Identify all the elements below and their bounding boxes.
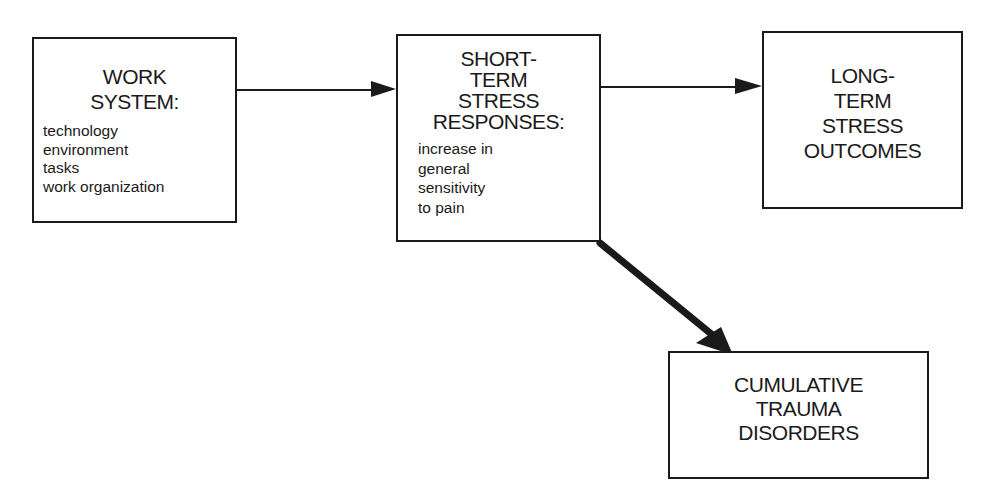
- title-line: STRESS: [398, 90, 599, 111]
- arrow-short-to-cumulative: [600, 243, 733, 355]
- node-long-term-stress-outcomes: LONG- TERM STRESS OUTCOMES: [762, 31, 963, 209]
- node-items: increase in general sensitivity to pain: [418, 139, 599, 217]
- title-line: TERM: [764, 88, 961, 113]
- title-line: CUMULATIVE: [670, 373, 927, 397]
- node-title: CUMULATIVE TRAUMA DISORDERS: [670, 373, 927, 445]
- title-line: WORK: [34, 64, 235, 89]
- arrow-short-to-long: [601, 78, 762, 94]
- title-line: SHORT-: [398, 48, 599, 69]
- title-line: DISORDERS: [670, 421, 927, 445]
- node-item: technology: [43, 122, 235, 141]
- title-line: SYSTEM:: [34, 89, 235, 114]
- node-title: LONG- TERM STRESS OUTCOMES: [764, 63, 961, 163]
- title-line: TERM: [398, 69, 599, 90]
- node-item: work organization: [43, 178, 235, 197]
- title-line: STRESS: [764, 113, 961, 138]
- node-title: SHORT- TERM STRESS RESPONSES:: [398, 48, 599, 132]
- node-work-system: WORK SYSTEM: technology environment task…: [32, 37, 237, 223]
- node-item: tasks: [43, 159, 235, 178]
- node-item: sensitivity: [418, 178, 599, 198]
- node-item: environment: [43, 141, 235, 160]
- title-line: TRAUMA: [670, 397, 927, 421]
- node-item: to pain: [418, 198, 599, 218]
- node-item: general: [418, 159, 599, 179]
- node-item: increase in: [418, 139, 599, 159]
- arrow-work-to-short: [237, 81, 396, 97]
- node-items: technology environment tasks work organi…: [43, 122, 235, 196]
- node-short-term-stress-responses: SHORT- TERM STRESS RESPONSES: increase i…: [396, 34, 601, 242]
- node-title: WORK SYSTEM:: [34, 64, 235, 114]
- node-cumulative-trauma-disorders: CUMULATIVE TRAUMA DISORDERS: [668, 351, 929, 479]
- title-line: OUTCOMES: [764, 138, 961, 163]
- title-line: RESPONSES:: [398, 111, 599, 132]
- title-line: LONG-: [764, 63, 961, 88]
